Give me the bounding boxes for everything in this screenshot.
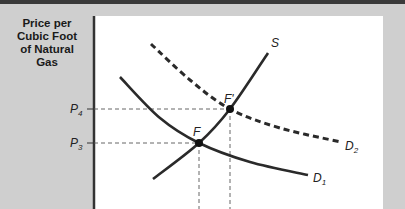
equilibrium-point <box>226 105 234 113</box>
d2-label: D2 <box>345 139 359 155</box>
s-label: S <box>271 36 279 50</box>
p4-label: P4 <box>70 102 83 118</box>
equilibrium-point <box>195 139 203 147</box>
fprime-label: F' <box>224 92 234 106</box>
f-label: F <box>193 125 201 139</box>
curve-d1 <box>120 77 308 175</box>
curve-s <box>153 53 268 179</box>
guide-lines <box>94 109 230 209</box>
p3-label: P3 <box>70 136 83 152</box>
curve-d2 <box>151 44 341 142</box>
d1-label: D1 <box>313 171 326 187</box>
chart-svg: P4 P3 S D1 D2 F F' <box>0 0 405 209</box>
